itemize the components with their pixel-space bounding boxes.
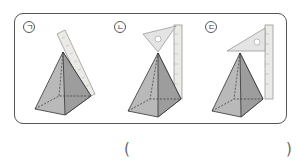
triangle-ruler-icon: [143, 26, 176, 52]
pyramid-ruler-illustration: [106, 14, 196, 122]
answer-close-paren: ): [286, 140, 292, 158]
choice-c[interactable]: ㄷ: [197, 14, 287, 122]
pyramid-icon: [128, 53, 181, 117]
pyramid-icon: [212, 53, 263, 117]
pyramid-icon: [35, 52, 91, 115]
choice-a[interactable]: ㄱ: [15, 14, 105, 122]
answer-blank[interactable]: [152, 140, 272, 158]
pyramid-ruler-illustration: [197, 14, 287, 122]
choices-box: ㄱ ㄴ: [14, 13, 287, 124]
answer-open-paren: (: [124, 140, 130, 158]
pyramid-ruler-illustration: [15, 14, 105, 122]
triangle-ruler-icon: [227, 28, 265, 51]
choice-b[interactable]: ㄴ: [106, 14, 196, 122]
ruler-icon: [265, 25, 273, 99]
